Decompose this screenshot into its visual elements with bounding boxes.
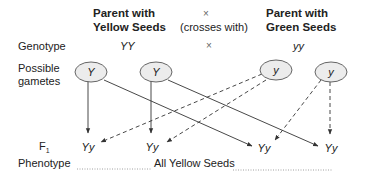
gamete-label: Y <box>87 66 95 78</box>
gamete-y2: y <box>315 62 347 82</box>
offspring-3: Yy <box>258 142 272 154</box>
dashed-arrows <box>101 74 330 142</box>
arrow-Y2-to-offspring4 <box>168 80 318 146</box>
gamete-Y1: Y <box>75 62 107 82</box>
gamete-y1: y <box>260 60 292 80</box>
arrow-y1-to-offspring2 <box>167 80 266 142</box>
gamete-Y2: Y <box>140 62 172 82</box>
gamete-label: Y <box>152 66 160 78</box>
offspring-2: Yy <box>146 141 160 153</box>
arrow-Y1-to-offspring3 <box>104 80 252 146</box>
arrow-y2-to-offspring3 <box>275 80 321 140</box>
cross-diagram: Y Y y y Yy Yy Yy Yy <box>0 0 365 183</box>
solid-arrows <box>88 80 318 146</box>
offspring-1: Yy <box>82 141 96 153</box>
offspring-4: Yy <box>325 142 339 154</box>
arrow-y1-to-offspring1 <box>101 74 262 142</box>
